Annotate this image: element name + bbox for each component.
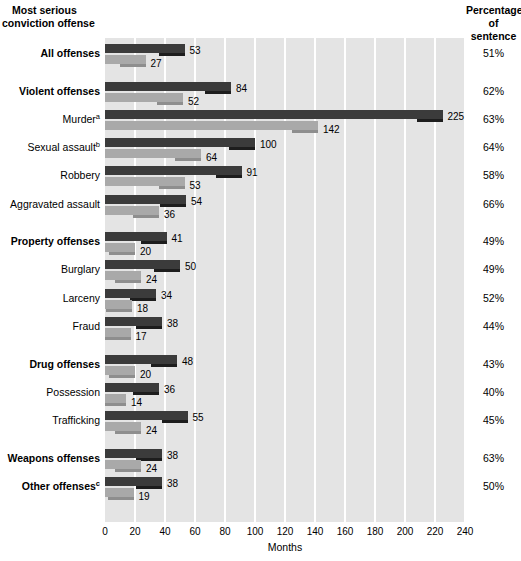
bar-shadow	[417, 119, 443, 122]
category-label: Drug offenses	[0, 358, 100, 370]
bar-value-light: 53	[190, 180, 201, 191]
footnote-marker: b	[96, 140, 100, 149]
bar-dark	[105, 195, 186, 204]
right-header-line-1: Percentage	[466, 4, 521, 17]
bar-shadow	[216, 175, 242, 178]
bar-dark	[105, 260, 180, 269]
bar-dark	[105, 110, 443, 119]
category-label: Burglary	[0, 263, 100, 275]
bar-value-light: 36	[164, 209, 175, 220]
bar-value-light: 18	[137, 303, 148, 314]
bar-value-dark: 54	[191, 196, 202, 207]
percentage-value: 49%	[466, 235, 521, 247]
percentage-value: 44%	[466, 320, 521, 332]
bar-light	[105, 93, 183, 102]
bar-shadow	[205, 91, 231, 94]
x-axis: 020406080100120140160180200220240	[105, 522, 465, 542]
bar-dark	[105, 355, 177, 364]
bar-value-dark: 48	[182, 356, 193, 367]
bar-light	[105, 55, 146, 64]
bar-value-light: 17	[136, 331, 147, 342]
category-label: Sexual assaultb	[0, 141, 100, 153]
left-column-header: Most serious conviction offense	[0, 4, 104, 30]
category-label: Robbery	[0, 169, 100, 181]
right-header-line-3: sentence	[466, 30, 521, 43]
bar-value-dark: 84	[236, 83, 247, 94]
percentage-value: 58%	[466, 169, 521, 181]
bar-dark	[105, 477, 162, 486]
x-tick-label: 220	[427, 526, 444, 537]
bar-shadow	[130, 298, 156, 301]
bar-value-light: 27	[151, 58, 162, 69]
bar-shadow	[105, 337, 131, 340]
bar-dark	[105, 449, 162, 458]
bar-light	[105, 243, 135, 252]
right-header-line-2: of	[466, 17, 521, 30]
bar-dark	[105, 166, 242, 175]
category-label: Property offenses	[0, 235, 100, 247]
percentage-value: 63%	[466, 113, 521, 125]
percentage-value: 50%	[466, 480, 521, 492]
bar-light	[105, 328, 131, 337]
bar-shadow	[229, 147, 255, 150]
percentage-value: 62%	[466, 85, 521, 97]
bar-light	[105, 300, 132, 309]
bar-shadow	[159, 53, 185, 56]
bar-light	[105, 460, 141, 469]
gridline	[464, 38, 465, 522]
bar-shadow	[136, 326, 162, 329]
bar-value-light: 142	[323, 124, 340, 135]
bar-dark	[105, 289, 156, 298]
bar-shadow	[136, 486, 162, 489]
plot-area: 5327845222514210064915354364120502434183…	[105, 38, 465, 522]
category-label: Murdera	[0, 113, 100, 125]
x-tick-label: 100	[247, 526, 264, 537]
percentage-value: 49%	[466, 263, 521, 275]
bar-light	[105, 121, 318, 130]
bar-light	[105, 271, 141, 280]
bar-shadow	[108, 497, 134, 500]
bar-dark	[105, 411, 188, 420]
category-label: Aggravated assault	[0, 198, 100, 210]
bar-value-dark: 91	[247, 167, 258, 178]
category-label: All offenses	[0, 47, 100, 59]
bar-light	[105, 149, 201, 158]
percentage-value: 45%	[466, 414, 521, 426]
x-tick-label: 80	[219, 526, 230, 537]
bar-dark	[105, 82, 231, 91]
bar-value-light: 24	[146, 463, 157, 474]
percentage-value: 66%	[466, 198, 521, 210]
bar-shadow	[115, 469, 141, 472]
bar-value-light: 19	[139, 491, 150, 502]
bar-value-dark: 38	[167, 318, 178, 329]
bar-shadow	[105, 403, 126, 406]
bar-value-dark: 55	[193, 412, 204, 423]
bar-dark	[105, 138, 255, 147]
bar-value-dark: 225	[448, 111, 465, 122]
bar-shadow	[151, 364, 177, 367]
x-tick-label: 180	[367, 526, 384, 537]
bar-light	[105, 394, 126, 403]
bar-light	[105, 366, 135, 375]
category-label: Other offensesc	[0, 480, 100, 492]
bar-value-light: 20	[140, 246, 151, 257]
percentage-value: 43%	[466, 358, 521, 370]
x-tick-label: 240	[457, 526, 474, 537]
percentage-value: 64%	[466, 141, 521, 153]
x-tick-label: 20	[129, 526, 140, 537]
bar-shadow	[115, 280, 141, 283]
bar-light	[105, 488, 134, 497]
bar-light	[105, 422, 141, 431]
bar-shadow	[115, 431, 141, 434]
x-axis-title: Months	[105, 541, 465, 553]
bar-shadow	[120, 64, 146, 67]
left-header-line-2: conviction offense	[0, 17, 104, 30]
bar-value-light: 14	[131, 397, 142, 408]
bar-value-light: 24	[146, 425, 157, 436]
bar-value-light: 24	[146, 274, 157, 285]
bar-value-dark: 34	[161, 290, 172, 301]
footnote-marker: a	[96, 111, 100, 120]
category-label: Fraud	[0, 320, 100, 332]
bar-shadow	[133, 392, 159, 395]
bar-value-light: 20	[140, 369, 151, 380]
